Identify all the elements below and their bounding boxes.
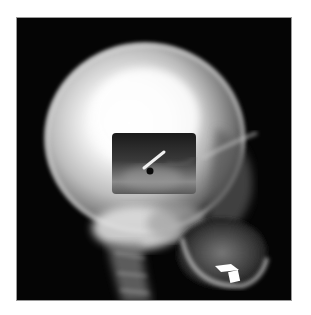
cervical-spine	[107, 243, 152, 301]
dark-spot	[147, 168, 154, 175]
mandible	[177, 218, 267, 288]
xray-image	[16, 17, 292, 301]
inset-window	[112, 133, 196, 194]
